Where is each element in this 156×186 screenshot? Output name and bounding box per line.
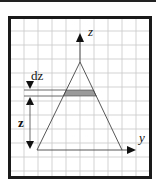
z-axis-label: z xyxy=(87,24,93,39)
dz-down-arrow-icon xyxy=(26,81,34,89)
z-dimension-down-arrow-icon xyxy=(26,141,34,149)
triangle-outline xyxy=(37,62,122,150)
triangle-element-diagram: z y dz z xyxy=(0,0,156,186)
dz-label: dz xyxy=(31,68,44,83)
z-axis-arrow-icon xyxy=(76,33,84,42)
shaded-dz-strip xyxy=(63,90,96,96)
y-axis-arrow-icon xyxy=(127,146,136,154)
z-height-label: z xyxy=(18,115,24,130)
y-axis-label: y xyxy=(137,130,145,145)
